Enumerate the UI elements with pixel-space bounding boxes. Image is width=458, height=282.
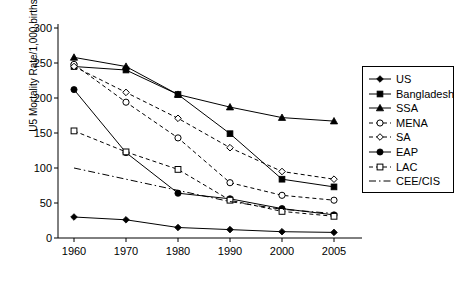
data-point-marker (377, 164, 383, 170)
legend-label: LAC (393, 160, 417, 174)
legend-item-mena[interactable]: MENA (367, 116, 428, 130)
legend-symbol-icon (367, 145, 393, 159)
legend-item-cee-cis[interactable]: CEE/CIS (367, 174, 440, 188)
legend-symbol-icon (367, 130, 393, 144)
legend-symbol-icon (367, 116, 393, 130)
x-tick-label: 1980 (166, 245, 190, 257)
data-point-marker (377, 76, 384, 83)
legend-symbol-icon (367, 87, 393, 101)
legend-symbol-icon (367, 160, 393, 174)
chart-legend: USBangladeshSSAMENASAEAPLACCEE/CIS (362, 66, 454, 193)
legend-item-ssa[interactable]: SSA (367, 101, 418, 115)
legend-symbol-icon (367, 72, 393, 86)
legend-item-eap[interactable]: EAP (367, 145, 418, 159)
data-point-marker (377, 91, 383, 97)
chart-root: U5 Mortality Rate/1,000 births 050100150… (0, 0, 458, 282)
legend-label: MENA (393, 116, 428, 130)
legend-symbol-icon (367, 174, 393, 188)
x-tick-label: 2000 (270, 245, 294, 257)
legend-label: SA (393, 130, 411, 144)
x-tick-label: 1970 (114, 245, 138, 257)
x-tick-label: 1960 (62, 245, 86, 257)
legend-label: EAP (393, 145, 418, 159)
legend-item-lac[interactable]: LAC (367, 160, 417, 174)
x-tick-label: 1990 (218, 245, 242, 257)
legend-label: Bangladesh (393, 87, 454, 101)
legend-symbol-icon (367, 101, 393, 115)
data-point-marker (377, 134, 384, 141)
legend-label: CEE/CIS (393, 174, 440, 188)
data-point-marker (377, 149, 383, 155)
legend-label: US (393, 72, 411, 86)
legend-label: SSA (393, 101, 418, 115)
data-point-marker (377, 120, 383, 126)
x-tick-label: 2005 (322, 245, 346, 257)
legend-item-us[interactable]: US (367, 72, 411, 86)
legend-item-bangladesh[interactable]: Bangladesh (367, 87, 454, 101)
legend-item-sa[interactable]: SA (367, 130, 411, 144)
